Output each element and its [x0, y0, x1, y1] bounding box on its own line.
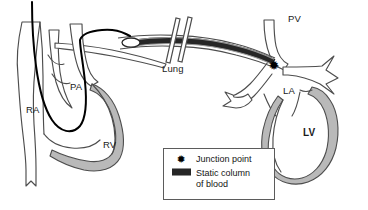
label-la: LA [283, 86, 295, 96]
aortic-root-stub [300, 90, 312, 92]
label-lung: Lung [162, 64, 184, 74]
ra-septum [40, 22, 44, 134]
label-pv: PV [288, 14, 301, 24]
legend-junction-label: Junction point [192, 154, 252, 165]
label-ra: RA [26, 105, 39, 115]
legend-bar-swatch [172, 168, 191, 176]
junction-point-marker: ✹ [269, 58, 280, 73]
tricuspid-inflow [44, 134, 100, 148]
label-rv: RV [103, 140, 116, 150]
label-lv: LV [303, 128, 315, 138]
la-vein-stub [223, 92, 252, 108]
catheter-balloon [122, 38, 140, 47]
figure-canvas: ✹ RA PA RV Lung PV LA LV ✹ Junction poin… [0, 0, 368, 210]
legend-star-icon: ✹ [170, 154, 192, 165]
legend-box: ✹ Junction point Static column of blood [163, 148, 275, 200]
label-pa: PA [70, 82, 82, 92]
legend-item-junction-point: ✹ Junction point [170, 154, 252, 165]
pulmonary-artery-trunk [49, 30, 72, 108]
legend-item-static-column: Static column of blood [170, 168, 250, 190]
junction-star-glyph: ✹ [269, 58, 280, 73]
legend-bar-icon [170, 168, 192, 176]
legend-static-column-line2: of blood [196, 179, 228, 189]
legend-static-column-line1: Static column [196, 168, 250, 178]
left-atrium-outline [232, 62, 268, 96]
legend-static-column-label: Static column of blood [192, 168, 250, 190]
